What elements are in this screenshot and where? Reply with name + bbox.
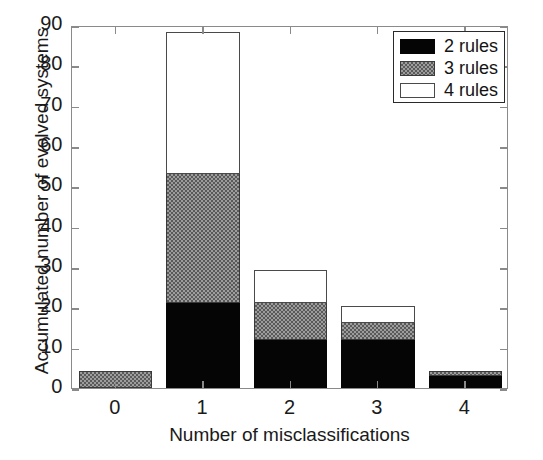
bar-group bbox=[166, 25, 239, 388]
y-tick-mark bbox=[72, 107, 79, 109]
y-tick-mark-right bbox=[500, 349, 507, 351]
legend-label: 2 rules bbox=[444, 37, 498, 55]
x-tick-label: 3 bbox=[371, 397, 382, 417]
y-tick-mark-right bbox=[500, 228, 507, 230]
bar-segment-4-rules bbox=[341, 306, 414, 323]
y-tick-label: 10 bbox=[40, 336, 62, 356]
x-tick-label: 4 bbox=[459, 397, 470, 417]
x-tick-mark-top bbox=[290, 27, 292, 34]
y-tick-mark bbox=[72, 66, 79, 68]
y-tick-mark bbox=[72, 308, 79, 310]
bar-segment-3-rules bbox=[429, 371, 502, 376]
bar-segment-3-rules bbox=[254, 302, 327, 339]
y-tick-mark-right bbox=[500, 107, 507, 109]
legend-label: 4 rules bbox=[444, 81, 498, 99]
y-tick-label: 40 bbox=[40, 215, 62, 235]
y-tick-label: 70 bbox=[40, 94, 62, 114]
legend-item: 3 rules bbox=[400, 58, 498, 78]
x-tick-label: 2 bbox=[284, 397, 295, 417]
chart-figure: Accumulated number of evolved systems 01… bbox=[0, 0, 543, 460]
legend-swatch-white-empty bbox=[400, 83, 435, 98]
y-tick-mark bbox=[72, 187, 79, 189]
y-tick-mark bbox=[72, 349, 79, 351]
x-tick-mark-bottom bbox=[202, 381, 204, 388]
bar-segment-2-rules bbox=[166, 302, 239, 388]
bar-segment-4-rules bbox=[254, 270, 327, 303]
y-tick-mark-right bbox=[500, 268, 507, 270]
x-tick-mark-top bbox=[202, 27, 204, 34]
legend-swatch-gray-checker bbox=[400, 61, 435, 76]
x-axis-ticks: 01234 bbox=[71, 389, 508, 429]
y-tick-mark bbox=[72, 268, 79, 270]
legend-item: 2 rules bbox=[400, 36, 498, 56]
legend-label: 3 rules bbox=[444, 59, 498, 77]
x-tick-mark-bottom bbox=[464, 381, 466, 388]
bar-group bbox=[254, 25, 327, 388]
legend-item: 4 rules bbox=[400, 80, 498, 100]
y-tick-mark bbox=[72, 228, 79, 230]
x-tick-label: 1 bbox=[197, 397, 208, 417]
y-tick-mark-right bbox=[500, 187, 507, 189]
legend-swatch-black-solid bbox=[400, 39, 435, 54]
y-tick-mark-right bbox=[500, 308, 507, 310]
y-tick-mark bbox=[72, 26, 79, 28]
x-tick-label: 0 bbox=[109, 397, 120, 417]
x-tick-mark-bottom bbox=[290, 381, 292, 388]
y-tick-label: 50 bbox=[40, 174, 62, 194]
x-tick-mark-bottom bbox=[115, 381, 117, 388]
y-tick-label: 60 bbox=[40, 134, 62, 154]
bar-segment-4-rules bbox=[166, 32, 239, 174]
y-tick-label: 20 bbox=[40, 295, 62, 315]
x-tick-mark-top bbox=[115, 27, 117, 34]
y-tick-label: 30 bbox=[40, 255, 62, 275]
bar-group bbox=[79, 25, 152, 388]
y-tick-label: 80 bbox=[40, 53, 62, 73]
y-tick-mark-right bbox=[500, 147, 507, 149]
y-tick-mark-right bbox=[500, 26, 507, 28]
x-tick-mark-bottom bbox=[377, 381, 379, 388]
legend: 2 rules3 rules4 rules bbox=[393, 31, 505, 103]
y-axis-ticks: 0102030405060708090 bbox=[0, 26, 71, 389]
bar-segment-3-rules bbox=[166, 173, 239, 303]
bar-segment-3-rules bbox=[341, 322, 414, 339]
y-tick-mark bbox=[72, 147, 79, 149]
y-tick-label: 0 bbox=[51, 376, 62, 396]
x-tick-mark-top bbox=[377, 27, 379, 34]
x-axis-title: Number of misclassifications bbox=[71, 424, 508, 446]
y-tick-label: 90 bbox=[40, 13, 62, 33]
